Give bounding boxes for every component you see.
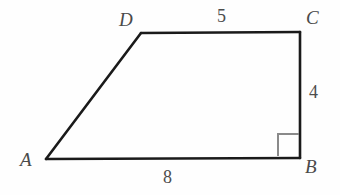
vertex-label-b: B xyxy=(305,157,317,176)
side-length-label-bc: 4 xyxy=(309,83,318,101)
geometry-figure-canvas: A B C D 8 4 5 xyxy=(0,0,340,195)
side-cd-line xyxy=(141,32,300,33)
right-angle-mark-icon xyxy=(278,134,299,156)
vertex-label-c: C xyxy=(306,8,319,27)
trapezoid-svg xyxy=(0,0,340,195)
side-length-label-cd: 5 xyxy=(217,7,226,25)
side-ab-line xyxy=(46,158,300,159)
vertex-label-d: D xyxy=(119,10,133,29)
side-da-line xyxy=(46,33,141,159)
vertex-label-a: A xyxy=(20,150,32,169)
side-length-label-ab: 8 xyxy=(163,168,172,186)
